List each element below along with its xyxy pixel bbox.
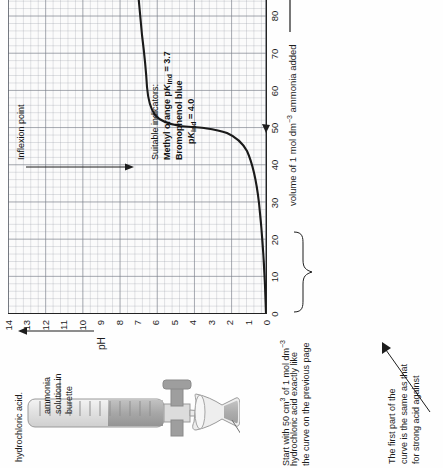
x-axis-title-sup: −3 [286, 115, 293, 123]
x-axis-title: volume of 1 mol dm−3 ammonia added [286, 44, 298, 206]
indicator-1-sub: ind [166, 74, 173, 85]
y-tick-3: 3 [205, 320, 216, 348]
y-axis-line [8, 313, 267, 314]
burette-label-line-3: burette [64, 386, 75, 414]
y-tick-0: 0 [261, 320, 272, 348]
apparatus-diagram-area: ammonia solution in burette Start with 5… [0, 356, 443, 468]
conical-flask [193, 394, 240, 430]
x-axis-title-lead: volume of 1 mol dm [287, 123, 298, 206]
x-tick-30: 30 [269, 198, 280, 209]
y-tick-2: 2 [224, 320, 235, 348]
indicators-heading: Suitable indicators: [150, 84, 161, 160]
y-axis-title: pH [96, 337, 107, 350]
indicator-bromophenol-blue-pk: pKind = 4.0 [186, 99, 199, 144]
indicator-2-name: Bromophenol blue [174, 81, 184, 161]
titration-curve [8, 0, 266, 314]
side-caption-leader-arrow-icon [376, 338, 436, 418]
y-tick-4: 4 [187, 320, 198, 348]
top-caption: hydrochloric acid. [14, 392, 26, 462]
flask-note-line-3: the curve on the previous page [301, 342, 313, 466]
x-tick-10: 10 [269, 272, 280, 283]
flask-note-sup-3: 3 [279, 398, 286, 402]
y-tick-8: 8 [113, 320, 124, 348]
y-tick-1: 1 [242, 320, 253, 348]
y-tick-7: 7 [132, 320, 143, 348]
burette-label-line-1: ammonia [42, 377, 53, 414]
y-tick-14: 14 [3, 320, 14, 348]
x-axis-line [266, 0, 267, 314]
x-tick-80: 80 [269, 11, 280, 22]
indicator-2-lead: p [186, 139, 196, 145]
x-tick-40: 40 [269, 160, 280, 171]
x-axis-title-tail: ammonia added [287, 44, 298, 115]
burette-label-line-2: solution in [53, 373, 64, 414]
indicator-1-lead: Methyl orange p [162, 91, 172, 160]
flask-note-line-2: hydrochloric acid exactly like [289, 352, 301, 466]
x-axis-arrow-icon [283, 0, 297, 32]
indicator-1-value: = 3.7 [162, 51, 172, 74]
inflexion-leader-arrow-icon [26, 160, 134, 174]
indicator-bromophenol-blue: Bromophenol blue [174, 81, 185, 161]
x-tick-60: 60 [269, 86, 280, 97]
inflexion-point-label: Inflexion point [16, 104, 27, 160]
indicator-2-sub: ind [190, 122, 197, 133]
x-tick-70: 70 [269, 49, 280, 60]
x-tick-20: 20 [269, 235, 280, 246]
x-tick-0: 0 [269, 311, 280, 316]
figure-page: 0 10 20 30 40 50 60 70 80 90 100 14 13 1… [0, 0, 443, 468]
flask-note-sup-minus3: −3 [279, 340, 286, 348]
y-tick-5: 5 [168, 320, 179, 348]
y-tick-6: 6 [150, 320, 161, 348]
y-axis-arrow-icon [18, 324, 94, 338]
first-part-brace-icon [292, 228, 314, 314]
equivalence-marker-icon [262, 122, 272, 134]
burette-and-flask-drawing [0, 356, 240, 468]
titration-chart: 0 10 20 30 40 50 60 70 80 90 100 14 13 1… [0, 0, 430, 356]
indicator-2-value: = 4.0 [186, 99, 196, 122]
indicator-1-k: K [162, 84, 172, 91]
indicator-2-k: K [186, 132, 196, 139]
